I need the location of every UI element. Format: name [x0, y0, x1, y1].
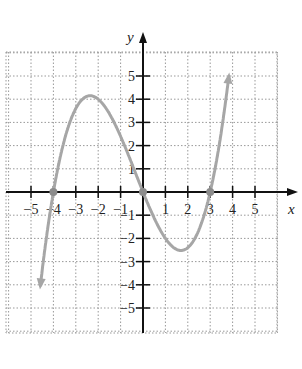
x-tick-label: 1 [162, 202, 169, 217]
axes [6, 32, 298, 333]
x-axis-label: x [287, 201, 295, 217]
x-tick-label: 5 [252, 202, 259, 217]
y-tick-label: −2 [120, 231, 135, 246]
y-tick-label: 3 [128, 115, 135, 130]
x-axis-arrow-icon [287, 188, 298, 196]
y-tick-label: 4 [128, 92, 135, 107]
x-tick-label: −2 [91, 202, 106, 217]
y-tick-label: −4 [120, 278, 135, 293]
y-axis-label: y [125, 29, 134, 45]
x-tick-label: 4 [229, 202, 236, 217]
intercept-point [206, 188, 214, 196]
x-tick-label: −3 [68, 202, 83, 217]
curve-arrow-up-icon [223, 73, 232, 84]
y-tick-label: −5 [120, 301, 135, 316]
y-axis-arrow-icon [139, 32, 147, 43]
x-tick-label: 2 [184, 202, 191, 217]
curve-arrow-down-icon [37, 278, 46, 289]
intercept-point [49, 188, 57, 196]
chart-canvas: −5−4−3−2−112345−5−4−3−2−112345 x y [0, 0, 302, 369]
intercept-point [139, 188, 147, 196]
y-tick-label: −3 [120, 255, 135, 270]
y-tick-label: 2 [128, 139, 135, 154]
x-tick-label: −5 [24, 202, 39, 217]
y-tick-label: 5 [128, 69, 135, 84]
y-tick-label: −1 [120, 208, 135, 223]
x-tick-label: −4 [46, 202, 61, 217]
